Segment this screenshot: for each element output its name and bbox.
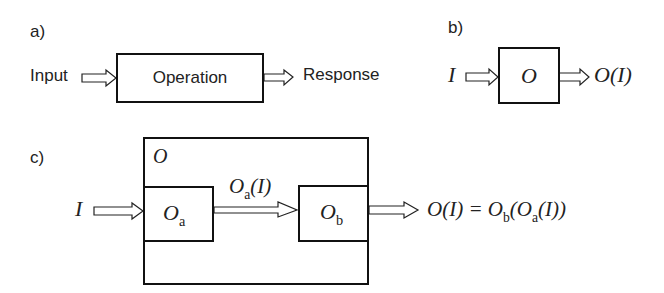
panel-c-label: c): [30, 148, 44, 168]
arrow-output-a: [264, 70, 293, 85]
operation-box: Operation: [116, 53, 264, 103]
operation-label: Operation: [118, 68, 262, 88]
outer-operator-symbol: O: [153, 145, 167, 168]
input-symbol-c: I: [75, 196, 82, 222]
arrow-input-c: [94, 203, 143, 219]
panel-b-label: b): [448, 18, 463, 38]
output-expression: O(I): [594, 62, 632, 88]
arrow-input-a: [82, 70, 116, 86]
arrow-input-b: [466, 69, 498, 85]
panel-a-label: a): [30, 22, 45, 42]
operator-box: O: [498, 47, 560, 104]
input-label: Input: [30, 66, 68, 86]
operator-b-symbol: Ob: [320, 199, 343, 229]
operator-symbol: O: [500, 63, 558, 89]
intermediate-expression: Oa(I): [229, 174, 271, 203]
arrow-output-b: [559, 69, 589, 85]
operator-a-symbol: Oa: [163, 200, 185, 230]
operator-a-box: Oa: [143, 186, 214, 242]
operator-b-box: Ob: [298, 185, 369, 242]
composition-equation: O(I) = Ob(Oa(I)): [427, 197, 566, 226]
arrow-output-c: [369, 202, 418, 218]
input-symbol: I: [448, 62, 455, 88]
response-label: Response: [303, 65, 380, 85]
